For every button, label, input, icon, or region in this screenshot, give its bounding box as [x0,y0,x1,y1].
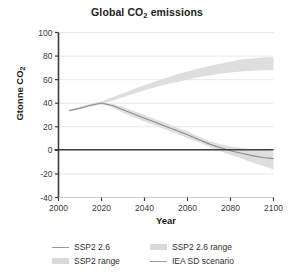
legend-label: SSP2 2.6 range [172,242,232,252]
svg-text:2080: 2080 [221,203,240,213]
svg-text:100: 100 [38,28,52,38]
svg-text:60: 60 [43,75,53,85]
legend-line-icon [150,257,167,266]
legend-label: IEA SD scenario [172,256,234,266]
svg-text:20: 20 [43,122,53,132]
plot-area: -40-200204060801002000202020402060208021… [0,0,294,277]
axis-ticks [55,33,274,202]
legend-item-iea-sd-scenario[interactable]: IEA SD scenario [150,254,262,268]
data-lines [55,103,274,159]
chart-legend: SSP2 2.6 SSP2 2.6 range SSP2 range IEA S… [52,240,262,268]
legend-item-ssp2-26[interactable]: SSP2 2.6 [52,240,150,254]
svg-text:-20: -20 [40,169,53,179]
chart-figure: Global CO2 emissions Gtonne CO2 Year -40… [0,0,294,277]
svg-text:-40: -40 [40,193,53,203]
svg-text:2060: 2060 [178,203,197,213]
svg-text:2040: 2040 [135,203,154,213]
data-bands [69,57,273,169]
legend-label: SSP2 2.6 [74,242,110,252]
svg-text:0: 0 [48,145,53,155]
axis-tick-labels: -40-200204060801002000202020402060208021… [38,28,283,213]
svg-text:2020: 2020 [92,203,111,213]
svg-text:2100: 2100 [264,203,283,213]
gridlines [59,33,274,198]
svg-text:2000: 2000 [49,203,68,213]
legend-label: SSP2 range [74,256,120,266]
legend-item-ssp2-range[interactable]: SSP2 range [52,254,150,268]
legend-item-ssp2-26-range[interactable]: SSP2 2.6 range [150,240,262,254]
legend-line-icon [52,243,69,252]
legend-band-icon [150,244,167,250]
svg-text:40: 40 [43,98,53,108]
axis-spines [59,33,274,198]
legend-band-icon [52,258,69,264]
svg-text:80: 80 [43,51,53,61]
